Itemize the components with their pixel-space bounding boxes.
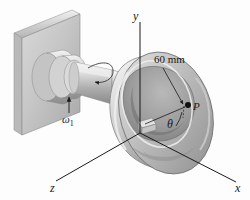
angular-velocity-label: ω1 — [62, 114, 74, 128]
angle-label-theta: θ — [167, 118, 173, 130]
point-P-marker — [185, 102, 191, 108]
axis-label-y: y — [133, 10, 138, 22]
omega-subscript: 1 — [70, 119, 74, 128]
omega-symbol: ω — [62, 113, 70, 125]
axis-label-z: z — [50, 182, 55, 194]
axis-label-x: x — [235, 182, 240, 194]
mechanics-figure: y x z P 60 mm θ ω1 — [0, 0, 250, 200]
figure-illustration — [0, 0, 250, 200]
dimension-label-60mm: 60 mm — [154, 54, 185, 65]
z-axis — [56, 133, 140, 181]
point-label-p: P — [193, 101, 200, 112]
